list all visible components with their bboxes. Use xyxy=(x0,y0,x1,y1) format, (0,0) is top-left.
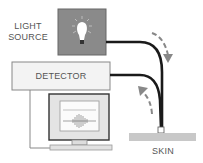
light-source-label: LIGHT SOURCE xyxy=(6,21,50,43)
light-label-line2: SOURCE xyxy=(6,32,50,43)
detector-fiber xyxy=(110,75,161,128)
monitor xyxy=(49,94,112,150)
light-return-arrow xyxy=(138,86,152,114)
probe-tip xyxy=(158,127,164,133)
source-fiber xyxy=(106,42,162,128)
detector-monitor-wire xyxy=(30,90,50,148)
detector-label: DETECTOR xyxy=(12,71,110,82)
skin-surface xyxy=(129,133,196,141)
light-label-line1: LIGHT xyxy=(6,21,50,32)
skin-label: SKIN xyxy=(140,146,186,157)
